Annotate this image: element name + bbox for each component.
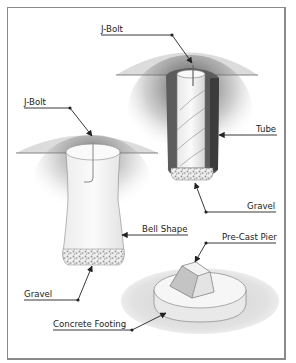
label-bell-shape: Bell Shape bbox=[142, 224, 188, 234]
pier-foundations-illustration: J-Bolt Tube Gravel J-Bolt Bell Shape Gra… bbox=[0, 0, 296, 363]
tube bbox=[177, 74, 205, 168]
bell-pier bbox=[16, 135, 158, 265]
gravel-bell bbox=[63, 249, 124, 265]
label-gravel-bell: Gravel bbox=[24, 289, 52, 299]
label-jbolt-tube: J-Bolt bbox=[100, 24, 124, 34]
label-gravel-tube: Gravel bbox=[247, 201, 275, 211]
label-concrete-footing: Concrete Footing bbox=[53, 319, 126, 329]
gravel-tube bbox=[171, 168, 213, 180]
label-jbolt-bell: J-Bolt bbox=[23, 97, 47, 107]
label-tube: Tube bbox=[255, 124, 276, 134]
label-precast-pier: Pre-Cast Pier bbox=[222, 232, 277, 242]
